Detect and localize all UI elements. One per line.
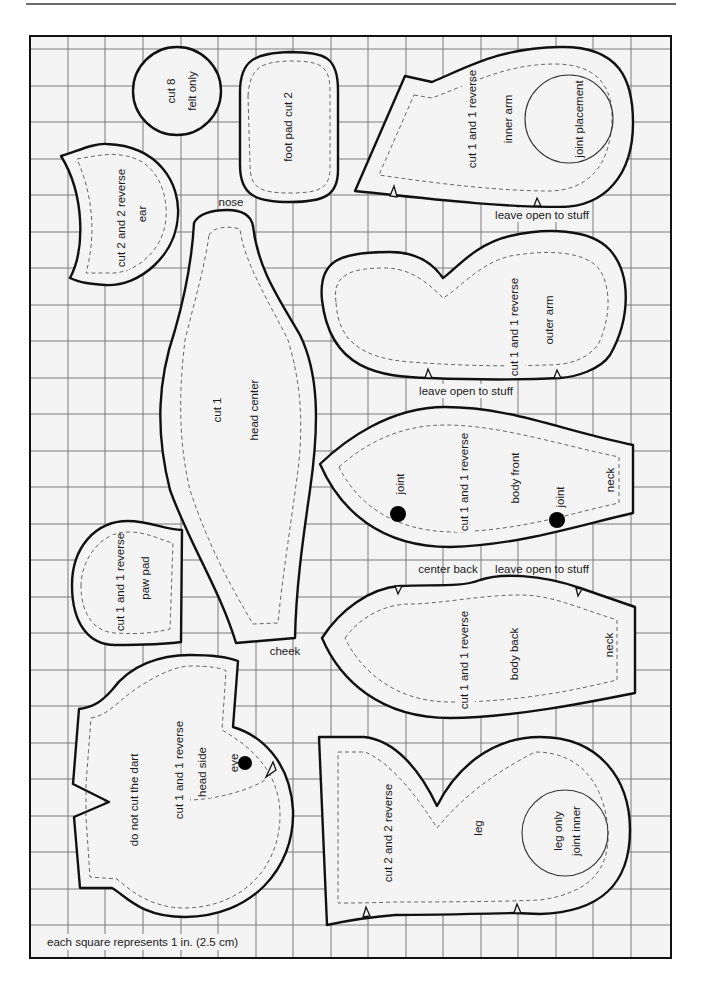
body-front-joint-label-2: joint (554, 486, 566, 509)
inner-arm-note: leave open to stuff (495, 209, 590, 221)
felt-circle-label-1: cut 8 (165, 79, 177, 104)
body-back-open-note: leave open to stuff (495, 563, 590, 575)
leg-joint-label-1: leg only (552, 811, 564, 851)
inner-arm-label-cut: cut 1 and 1 reverse (466, 70, 478, 168)
inner-arm-label-joint: joint placement (573, 80, 585, 159)
ear-label-cut: cut 2 and 2 reverse (115, 169, 127, 267)
felt-circle-label-2: felt only (186, 71, 198, 111)
leg-label-name: leg (472, 820, 484, 835)
piece-leg: cut 2 and 2 reverse leg leg only joint i… (319, 737, 630, 925)
body-front-joint-label-1: joint (394, 473, 406, 496)
head-center-nose-label: nose (219, 196, 244, 208)
head-center-label-cut: cut 1 (211, 398, 223, 423)
body-front-label-cut: cut 1 and 1 reverse (458, 433, 470, 531)
piece-paw-pad: cut 1 and 1 reverse paw pad (72, 521, 182, 645)
head-center-label-name: head center (248, 379, 260, 440)
head-side-label-cut: cut 1 and 1 reverse (173, 721, 185, 819)
inner-arm-label-name: inner arm (502, 95, 514, 144)
paw-pad-label-name: paw pad (139, 556, 151, 599)
piece-foot-pad: foot pad cut 2 (240, 52, 338, 202)
foot-pad-label: foot pad cut 2 (282, 92, 294, 162)
body-back-label-cut: cut 1 and 1 reverse (458, 611, 470, 709)
leg-joint-label-2: joint inner (570, 806, 582, 857)
body-front-label-name: body front (509, 452, 521, 504)
outer-arm-label-cut: cut 1 and 1 reverse (508, 278, 520, 376)
head-side-eye-label: eye (228, 754, 240, 773)
head-side-dart-note: do not cut the dart (128, 753, 140, 847)
outer-arm-note: leave open to stuff (419, 385, 514, 397)
body-back-center-back-note: center back (418, 563, 478, 575)
head-side-label-name: head side (196, 747, 208, 797)
outer-arm-label-name: outer arm (543, 295, 555, 344)
body-front-neck-label: neck (604, 468, 616, 493)
head-center-cheek-label: cheek (270, 645, 301, 657)
pattern-sheet: cut 8 felt only foot pad cut 2 cut 1 and… (0, 0, 702, 985)
paw-pad-label-cut: cut 1 and 1 reverse (114, 533, 126, 631)
body-back-neck-label: neck (603, 633, 615, 658)
body-back-label-name: body back (508, 628, 520, 681)
leg-label-cut: cut 2 and 2 reverse (382, 784, 394, 882)
piece-felt-circle: cut 8 felt only (133, 47, 221, 135)
scale-note: each square represents 1 in. (2.5 cm) (47, 936, 238, 948)
ear-label-name: ear (136, 206, 148, 223)
